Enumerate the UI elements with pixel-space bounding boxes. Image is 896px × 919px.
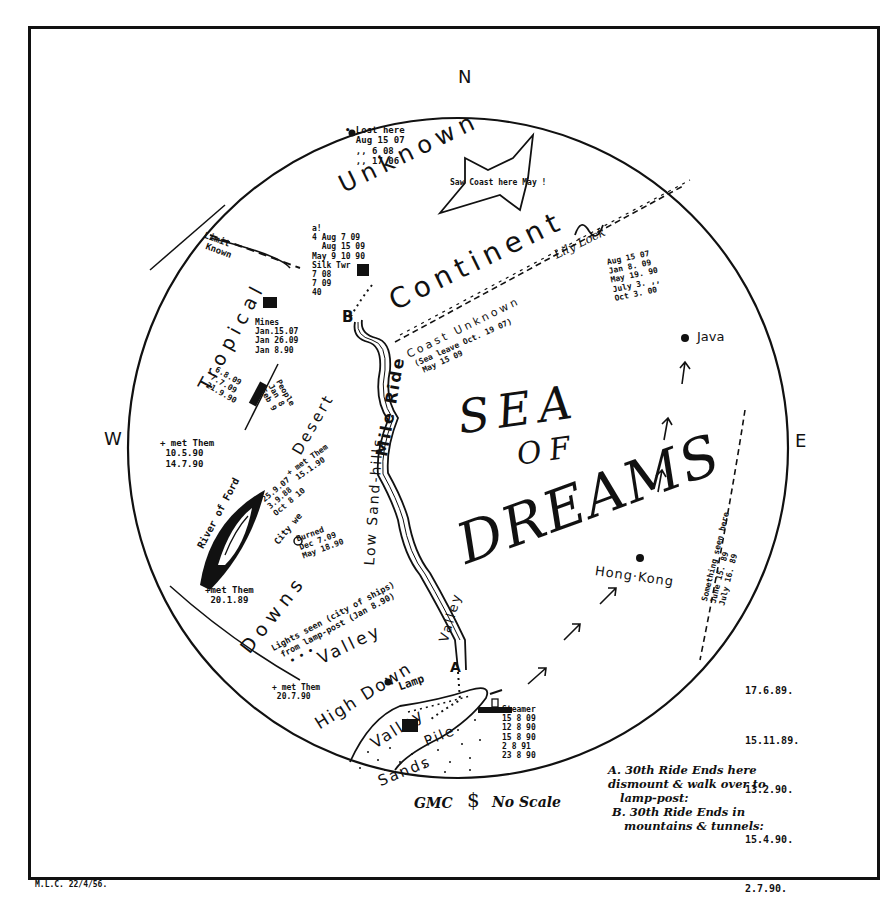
legend-date: 15.4.90. xyxy=(745,832,799,849)
mines-icon xyxy=(263,297,277,308)
legend-note-b: B. 30th Ride Ends in mountains & tunnels… xyxy=(612,805,764,833)
note-lily-lock-dates: Aug 15 07 Jan 8. 09 May 19. 90 July 3. ,… xyxy=(606,248,663,303)
compass-east: E xyxy=(795,432,806,450)
sea-coast-island xyxy=(440,135,533,213)
sea-line-2: OF xyxy=(515,431,580,469)
legend-date: 2.7.90. xyxy=(745,881,799,898)
compass-north: N xyxy=(458,68,471,86)
scale-label: No Scale xyxy=(492,795,561,809)
note-silk-tower: a! 4 Aug 7 09 Aug 15 09 May 9 10 90 Silk… xyxy=(312,224,365,298)
marker-b: B xyxy=(342,310,353,325)
note-met-them-downs: +met Them 20.1.89 xyxy=(205,585,254,606)
place-sea-coast: Saw Coast here May ! xyxy=(450,178,546,187)
note-steamer: Steamer 15 8 09 12 8 90 15 8 90 2 8 91 2… xyxy=(502,705,536,760)
place-java: Java xyxy=(697,330,724,343)
track-a xyxy=(430,672,460,720)
java-dot xyxy=(681,334,689,342)
note-met-them-valley: + met Them 20.7.90 xyxy=(272,683,320,701)
scale-symbol: $ xyxy=(467,790,480,810)
legend-date: 15.11.89. xyxy=(745,733,799,750)
hong-kong-dot xyxy=(636,554,644,562)
legend-date: 17.6.89. xyxy=(745,683,799,700)
note-met-them-west: + met Them 10.5.90 14.7.90 xyxy=(160,438,214,469)
marker-a: A xyxy=(450,660,461,674)
legend-note-a: A. 30th Ride Ends here dismount & walk o… xyxy=(608,763,766,805)
note-mines: Mines Jan.15.07 Jan 26.09 Jan 8.90 xyxy=(255,318,298,355)
credit: M.L.C. 22/4/56. xyxy=(35,880,107,889)
compass-west: W xyxy=(104,430,122,448)
note-lost-here: • Lost here Aug 15 07 ,, 6 08 ,, 17 06 xyxy=(345,125,405,166)
signature: GMC xyxy=(414,796,453,810)
